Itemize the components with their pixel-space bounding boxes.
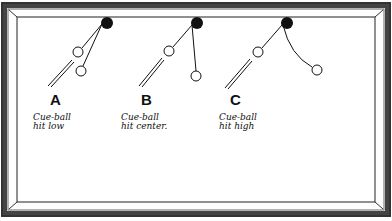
panel-c-label: C [230, 91, 241, 108]
panel-a-caption-2: hit low [33, 122, 64, 131]
table-frame-icon [0, 0, 392, 221]
billiard-table-diagram: A Cue-ball hit low B Cue-ball hit center… [0, 0, 392, 221]
panel-a-label: A [50, 91, 61, 108]
panel-b-label: B [141, 91, 152, 108]
panel-b-caption-2: hit center. [121, 122, 167, 131]
panel-c-caption-2: hit high [219, 122, 254, 131]
